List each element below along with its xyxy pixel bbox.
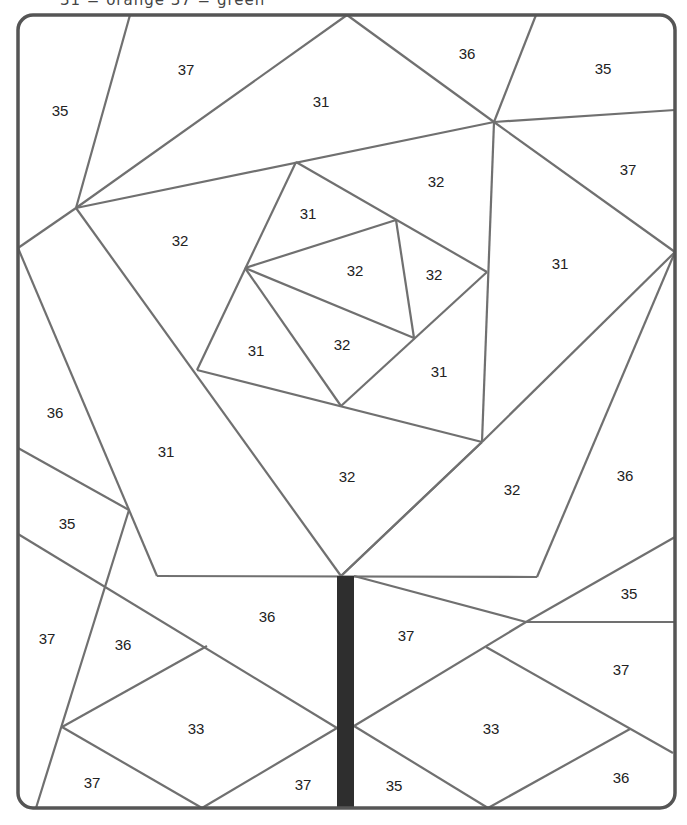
region-number: 35: [52, 102, 69, 119]
region-edge: [18, 208, 76, 248]
region-number: 37: [613, 661, 630, 678]
region-number: 35: [386, 777, 403, 794]
region-edge: [486, 647, 673, 753]
region-edge: [76, 15, 130, 208]
region-number: 31: [313, 93, 330, 110]
region-edge: [347, 15, 494, 122]
region-edge: [482, 252, 675, 442]
region-edge: [18, 448, 129, 510]
region-edge: [76, 208, 341, 576]
region-number: 32: [339, 468, 356, 485]
rose-stem: [337, 576, 354, 808]
region-number: 35: [59, 515, 76, 532]
region-number: 37: [178, 61, 195, 78]
region-number: 31: [552, 255, 569, 272]
region-number: 32: [428, 173, 445, 190]
region-number: 35: [621, 585, 638, 602]
region-number: 36: [115, 636, 132, 653]
region-edge: [354, 576, 526, 622]
region-number: 32: [347, 262, 364, 279]
region-number: 37: [84, 774, 101, 791]
region-number: 37: [39, 630, 56, 647]
region-edge: [494, 110, 675, 122]
region-number: 36: [47, 404, 64, 421]
coloring-page: 3537313635323132373232313132313631323236…: [0, 0, 687, 825]
region-edge: [18, 534, 337, 728]
region-number: 32: [172, 232, 189, 249]
region-edge: [197, 370, 482, 442]
region-number: 36: [459, 45, 476, 62]
region-number: 36: [613, 769, 630, 786]
region-edge: [296, 162, 487, 272]
region-number: 37: [620, 161, 637, 178]
region-number: 32: [426, 266, 443, 283]
region-edge: [202, 728, 337, 808]
region-edge: [197, 162, 296, 370]
region-number: 32: [334, 336, 351, 353]
region-edge: [62, 727, 202, 808]
region-number: 33: [483, 720, 500, 737]
region-edge: [354, 726, 488, 808]
region-edge: [537, 252, 675, 577]
region-edge: [488, 729, 630, 808]
region-edge: [494, 15, 536, 122]
region-edge: [494, 122, 675, 252]
region-number: 37: [398, 627, 415, 644]
region-edge: [341, 442, 482, 576]
region-number: 35: [595, 60, 612, 77]
region-number: 36: [617, 467, 634, 484]
region-number: 31: [300, 205, 317, 222]
region-number: 31: [248, 342, 265, 359]
region-number: 36: [259, 608, 276, 625]
region-edge: [18, 248, 157, 576]
region-edge: [341, 272, 487, 406]
region-edge: [76, 122, 494, 208]
region-number: 32: [504, 481, 521, 498]
region-number: 33: [188, 720, 205, 737]
region-edge: [354, 622, 526, 726]
region-number: 31: [158, 443, 175, 460]
region-edge: [482, 122, 494, 442]
region-number: 31: [431, 363, 448, 380]
region-edge: [245, 220, 396, 268]
region-edge: [396, 220, 414, 338]
region-number: 37: [295, 776, 312, 793]
